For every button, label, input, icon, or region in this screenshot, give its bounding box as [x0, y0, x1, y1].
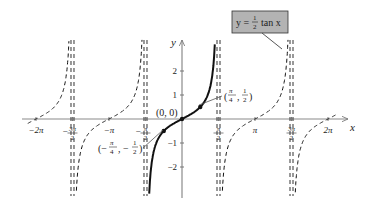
svg-text:−2π: −2π: [28, 125, 44, 135]
svg-text:−π: −π: [104, 125, 115, 135]
svg-text:4: 4: [229, 96, 233, 104]
svg-text:(: (: [224, 91, 228, 103]
svg-text:1: 1: [173, 90, 178, 100]
legend-num: 1: [253, 14, 257, 22]
svg-text:−2: −2: [167, 162, 177, 172]
svg-text:(−: (−: [98, 143, 107, 155]
legend-rhs: tan x: [261, 17, 281, 28]
svg-text:2: 2: [173, 66, 178, 76]
svg-text:,: ,: [237, 91, 240, 102]
legend-lhs: y =: [236, 17, 250, 28]
svg-text:, −: , −: [118, 143, 129, 154]
origin-label: (0, 0): [156, 107, 178, 119]
svg-text:4: 4: [110, 148, 114, 156]
svg-text:2: 2: [133, 148, 137, 156]
svg-text:−1: −1: [167, 138, 177, 148]
svg-text:π: π: [110, 139, 114, 147]
svg-text:): ): [249, 91, 252, 103]
svg-text:2π: 2π: [323, 125, 333, 135]
svg-text:1: 1: [133, 139, 137, 147]
svg-text:π: π: [253, 125, 258, 135]
svg-text:−: −: [62, 126, 67, 136]
legend-den: 2: [253, 23, 257, 31]
svg-text:): ): [139, 143, 142, 155]
tangent-graph: −2π−3π2−π−π2π2π3π22π21−1−2 x y (0, 0) ( …: [0, 0, 368, 209]
x-axis-label: x: [349, 121, 355, 133]
y-axis-label: y: [170, 36, 176, 48]
svg-text:1: 1: [243, 87, 247, 95]
legend-box: y = 1 2 tan x: [232, 11, 288, 49]
svg-text:3π: 3π: [68, 125, 77, 133]
svg-text:π: π: [229, 87, 233, 95]
svg-text:2: 2: [243, 96, 247, 104]
svg-text:−: −: [135, 126, 140, 136]
svg-text:3π: 3π: [287, 125, 296, 133]
